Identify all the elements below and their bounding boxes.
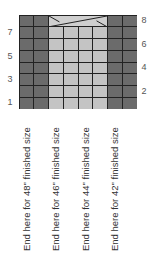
row-number-4: 4 bbox=[139, 62, 149, 72]
chart-cell bbox=[34, 74, 48, 85]
cable-cross-icon bbox=[49, 16, 107, 27]
chart-cell bbox=[20, 39, 34, 50]
chart-cell bbox=[93, 98, 107, 109]
chart-cell bbox=[93, 63, 107, 74]
row-number-2: 2 bbox=[139, 86, 149, 96]
chart-cell bbox=[123, 51, 137, 62]
chart-cell bbox=[123, 98, 137, 109]
knitting-chart bbox=[19, 15, 137, 109]
size-label-42: End here for 42" finished size bbox=[109, 113, 121, 253]
chart-cell bbox=[34, 51, 48, 62]
chart-cell bbox=[123, 27, 137, 38]
chart-cell bbox=[20, 86, 34, 97]
chart-cell bbox=[20, 98, 34, 109]
chart-cell bbox=[64, 86, 78, 97]
chart-cell bbox=[49, 51, 63, 62]
chart-cell bbox=[20, 74, 34, 85]
chart-cell bbox=[108, 27, 122, 38]
chart-cell bbox=[93, 74, 107, 85]
row-number-7: 7 bbox=[5, 27, 15, 37]
chart-cell bbox=[20, 16, 34, 27]
chart-cell bbox=[79, 63, 93, 74]
chart-cell bbox=[34, 98, 48, 109]
chart-cell bbox=[108, 63, 122, 74]
size-label-44-text: End here for 44" finished size bbox=[80, 127, 82, 251]
chart-cell bbox=[79, 98, 93, 109]
size-label-48: End here for 48" finished size bbox=[21, 113, 33, 253]
chart-cell bbox=[20, 27, 34, 38]
size-label-48-text: End here for 48" finished size bbox=[21, 127, 23, 251]
chart-cell bbox=[79, 39, 93, 50]
chart-cell bbox=[108, 39, 122, 50]
size-label-46-text: End here for 46" finished size bbox=[50, 127, 52, 251]
chart-cell bbox=[108, 86, 122, 97]
chart-cell bbox=[123, 16, 137, 27]
chart-cell bbox=[64, 98, 78, 109]
chart-cell bbox=[34, 27, 48, 38]
chart-cell bbox=[20, 51, 34, 62]
chart-cell bbox=[123, 63, 137, 74]
chart-cell bbox=[49, 98, 63, 109]
chart-cell bbox=[64, 51, 78, 62]
row-number-1: 1 bbox=[5, 97, 15, 107]
chart-cell bbox=[64, 39, 78, 50]
chart-cell bbox=[34, 86, 48, 97]
chart-cell bbox=[108, 74, 122, 85]
chart-cell bbox=[93, 39, 107, 50]
chart-cell bbox=[49, 39, 63, 50]
chart-cell bbox=[49, 86, 63, 97]
chart-cell bbox=[93, 51, 107, 62]
row-number-3: 3 bbox=[5, 74, 15, 84]
chart-cell bbox=[64, 27, 78, 38]
chart-cell bbox=[79, 51, 93, 62]
chart-cell bbox=[34, 63, 48, 74]
size-label-44: End here for 44" finished size bbox=[80, 113, 92, 253]
chart-cell bbox=[20, 63, 34, 74]
chart-cell bbox=[49, 27, 63, 38]
chart-cell bbox=[93, 86, 107, 97]
chart-cell bbox=[64, 74, 78, 85]
chart-cell bbox=[79, 74, 93, 85]
chart-cell bbox=[123, 74, 137, 85]
chart-cell bbox=[123, 86, 137, 97]
row-number-6: 6 bbox=[139, 39, 149, 49]
chart-cell bbox=[34, 39, 48, 50]
chart-cell bbox=[49, 74, 63, 85]
chart-cell bbox=[108, 16, 122, 27]
chart-cell bbox=[108, 51, 122, 62]
chart-cell bbox=[79, 86, 93, 97]
chart-cell bbox=[93, 27, 107, 38]
row-number-8: 8 bbox=[139, 15, 149, 25]
size-label-46: End here for 46" finished size bbox=[50, 113, 62, 253]
chart-cell bbox=[34, 16, 48, 27]
chart-cell bbox=[123, 39, 137, 50]
chart-cell bbox=[108, 98, 122, 109]
chart-cell bbox=[49, 63, 63, 74]
row-number-5: 5 bbox=[5, 51, 15, 61]
chart-cell bbox=[79, 27, 93, 38]
size-label-42-text: End here for 42" finished size bbox=[109, 127, 111, 251]
chart-cell bbox=[64, 63, 78, 74]
